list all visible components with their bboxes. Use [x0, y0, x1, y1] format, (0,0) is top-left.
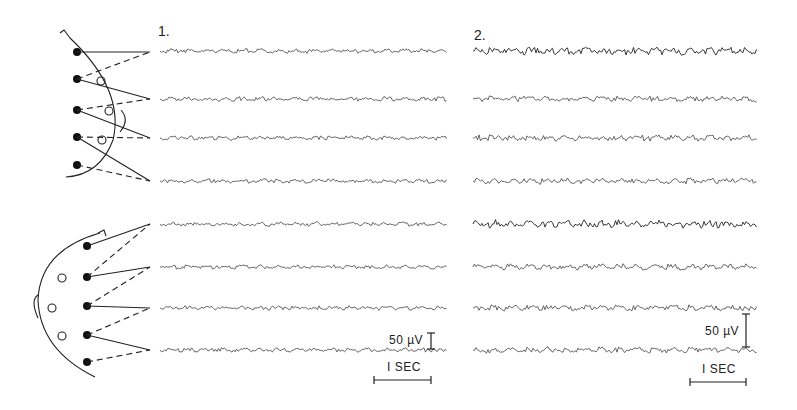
scale-bars — [374, 314, 750, 386]
eeg-trace — [473, 220, 757, 229]
lower-montage-diagram — [34, 224, 150, 377]
eeg-trace — [473, 305, 757, 311]
ear-outline-lower — [34, 295, 38, 318]
eeg-trace — [160, 136, 447, 141]
eeg-figure — [0, 0, 797, 410]
eeg-trace — [473, 135, 757, 141]
eeg-trace — [160, 222, 447, 227]
eeg-trace — [473, 347, 757, 353]
eeg-trace — [473, 264, 757, 271]
eeg-trace — [473, 96, 757, 102]
panel-2-label: 2. — [474, 27, 486, 43]
eeg-trace — [160, 306, 447, 311]
amplitude-scale-label-1: 50 µV — [389, 333, 423, 347]
amplitude-scale-label-2: 50 µV — [705, 324, 739, 338]
eeg-trace — [160, 348, 447, 353]
filled-electrodes — [73, 48, 81, 169]
panel-1-label: 1. — [158, 23, 170, 39]
eeg-trace — [160, 49, 447, 54]
eeg-traces — [160, 47, 757, 353]
time-scale-label-2: I SEC — [702, 362, 736, 376]
eeg-trace — [160, 265, 447, 270]
eeg-trace — [473, 47, 757, 55]
time-scale-label-1: I SEC — [387, 360, 421, 374]
eeg-trace — [160, 179, 447, 184]
upper-montage-diagram — [60, 30, 150, 181]
eeg-trace — [160, 97, 447, 102]
eeg-trace — [473, 178, 757, 184]
open-electrodes-lower — [48, 274, 66, 340]
